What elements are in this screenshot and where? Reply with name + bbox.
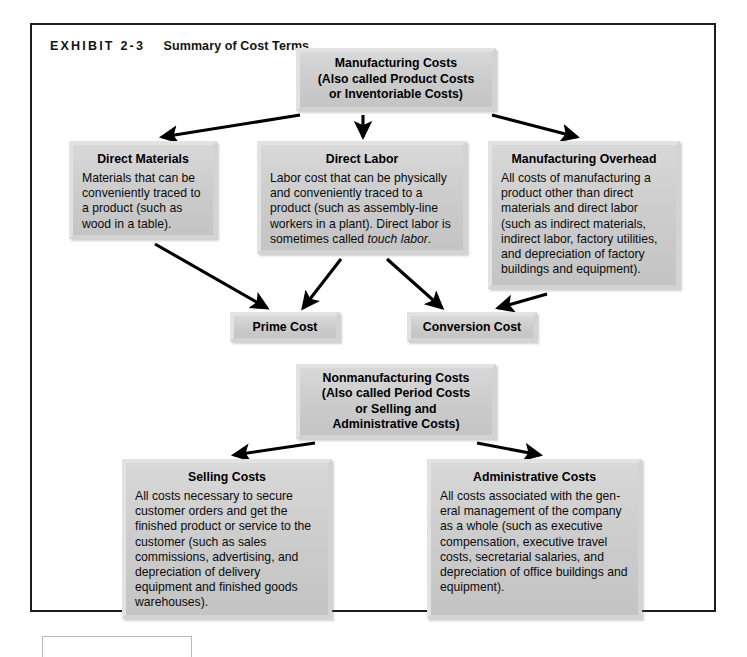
box-prime-cost-inner: Prime Cost (234, 316, 336, 338)
box-conversion-cost-title: Conversion Cost (423, 320, 521, 335)
box-prime-cost-title: Prime Cost (253, 320, 318, 335)
arrow-direct-labor-to-conversion-cost (387, 259, 442, 308)
box-direct-labor-body: Labor cost that can be physically and co… (270, 171, 454, 247)
box-direct-materials: Direct Materials Materials that can be c… (69, 141, 217, 239)
box-manufacturing-overhead-title: Manufacturing Overhead (501, 152, 667, 167)
box-selling-costs: Selling Costs All costs necessary to sec… (122, 459, 332, 619)
box-selling-costs-body: All costs necessary to secure customer o… (135, 489, 319, 611)
box-conversion-cost: Conversion Cost (407, 312, 537, 342)
box-administrative-costs-title: Administrative Costs (440, 470, 629, 485)
arrow-manufacturing-overhead-to-conversion-cost (498, 294, 547, 308)
box-direct-labor-inner: Direct Labor Labor cost that can be phys… (261, 145, 463, 250)
box-direct-materials-inner: Direct Materials Materials that can be c… (73, 145, 213, 235)
cost-terms-diagram: Manufacturing Costs (Also called Product… (32, 25, 718, 614)
box-administrative-costs: Administrative Costs All costs associate… (427, 459, 642, 619)
exhibit-frame: EXHIBIT 2-3 Summary of Cost Terms (30, 23, 716, 612)
box-direct-labor-body-part2: . (428, 232, 431, 246)
box-direct-labor-title: Direct Labor (270, 152, 454, 167)
arrow-direct-labor-to-prime-cost (303, 259, 341, 308)
box-manufacturing-costs-inner: Manufacturing Costs (Also called Product… (300, 52, 492, 107)
box-direct-labor-body-italic: touch labor (368, 232, 428, 246)
arrow-nonmfg-to-selling-costs (234, 443, 315, 455)
box-direct-materials-title: Direct Materials (82, 152, 204, 167)
box-administrative-costs-body: All costs associated with the gen-eral m… (440, 489, 629, 595)
page-fragment-box (42, 636, 192, 657)
arrow-mfg-to-direct-materials (162, 115, 300, 137)
arrow-mfg-to-manufacturing-overhead (492, 115, 577, 137)
box-nonmanufacturing-costs-inner: Nonmanufacturing Costs (Also called Peri… (300, 368, 492, 435)
box-nonmanufacturing-costs-title: Nonmanufacturing Costs (Also called Peri… (322, 371, 470, 433)
box-manufacturing-overhead-body: All costs of manufacturing a product oth… (501, 171, 667, 277)
box-selling-costs-title: Selling Costs (135, 470, 319, 485)
box-conversion-cost-inner: Conversion Cost (411, 316, 533, 338)
box-prime-cost: Prime Cost (230, 312, 340, 342)
arrow-direct-materials-to-prime-cost (155, 244, 267, 308)
box-manufacturing-costs-title: Manufacturing Costs (Also called Product… (318, 56, 474, 103)
box-manufacturing-costs: Manufacturing Costs (Also called Product… (296, 48, 496, 111)
box-direct-materials-body: Materials that can be conveniently trace… (82, 171, 204, 232)
box-administrative-costs-inner: Administrative Costs All costs associate… (431, 463, 638, 615)
arrow-nonmfg-to-administrative-costs (477, 443, 540, 455)
box-selling-costs-inner: Selling Costs All costs necessary to sec… (126, 463, 328, 615)
box-manufacturing-overhead: Manufacturing Overhead All costs of manu… (488, 141, 680, 289)
box-nonmanufacturing-costs: Nonmanufacturing Costs (Also called Peri… (296, 364, 496, 439)
box-manufacturing-overhead-inner: Manufacturing Overhead All costs of manu… (492, 145, 676, 285)
box-direct-labor: Direct Labor Labor cost that can be phys… (257, 141, 467, 254)
